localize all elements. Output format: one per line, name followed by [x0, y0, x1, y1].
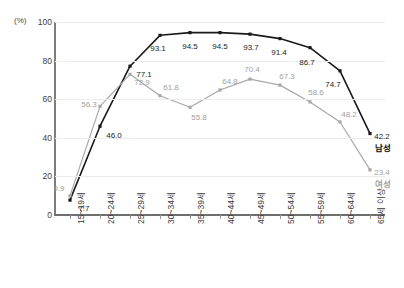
series-line: [70, 33, 370, 201]
x-tick-mark: [100, 215, 101, 219]
data-point-marker: [248, 78, 251, 81]
data-label: 46.0: [106, 131, 122, 140]
series-label-female: 여성: [375, 177, 391, 189]
series-label-male: 남성: [375, 141, 391, 153]
data-point-marker: [278, 84, 281, 87]
data-point-marker: [98, 105, 101, 108]
x-tick-mark: [340, 215, 341, 219]
gridline: [55, 176, 385, 177]
x-category-label: 65세 이상: [374, 188, 386, 224]
x-category-label: 60~64세: [344, 192, 356, 224]
data-label: 64.8: [222, 76, 238, 85]
y-tick-label: 0: [18, 210, 52, 220]
data-point-marker: [68, 199, 71, 202]
data-point-marker: [368, 132, 371, 135]
data-point-marker: [128, 73, 131, 76]
data-label: 86.7: [299, 57, 315, 66]
x-category-label: 50~54세: [284, 192, 296, 224]
data-label: 55.8: [191, 113, 207, 122]
data-point-marker: [68, 194, 71, 197]
y-tick-label: 20: [18, 171, 52, 181]
series-lines: [55, 22, 385, 215]
data-point-marker: [308, 100, 311, 103]
data-point-marker: [98, 125, 101, 128]
data-label: 94.5: [212, 41, 228, 50]
data-label: 94.5: [182, 41, 198, 50]
data-label: 42.2: [374, 131, 390, 140]
data-label: 93.7: [243, 43, 259, 52]
y-tick-label: 60: [18, 94, 52, 104]
data-point-marker: [368, 168, 371, 171]
data-label: 9.9: [53, 183, 64, 192]
y-tick-label: 40: [18, 133, 52, 143]
x-category-label: 25~29세: [134, 192, 146, 224]
data-point-marker: [188, 106, 191, 109]
data-label: 70.4: [244, 65, 260, 74]
data-label: 58.6: [308, 87, 324, 96]
data-point-marker: [218, 88, 221, 91]
gridline: [55, 61, 385, 62]
data-point-marker: [128, 65, 131, 68]
x-tick-mark: [370, 215, 371, 219]
x-category-label: 45~49세: [254, 192, 266, 224]
data-point-marker: [338, 120, 341, 123]
y-tick-label: 80: [18, 56, 52, 66]
gridline: [55, 99, 385, 100]
data-point-marker: [218, 31, 221, 34]
x-category-label: 20~24세: [104, 192, 116, 224]
data-label: 93.1: [150, 44, 166, 53]
x-category-label: 55~59세: [314, 192, 326, 224]
x-tick-mark: [250, 215, 251, 219]
gridline: [55, 22, 385, 23]
data-label: 23.4: [374, 167, 390, 176]
data-label: 7.7: [78, 204, 89, 213]
data-label: 74.7: [325, 79, 341, 88]
y-axis-tick-labels: 100806040200: [14, 0, 52, 288]
line-chart: (%) 100806040200 15~19세20~24세25~29세30~34…: [0, 0, 404, 288]
x-tick-mark: [130, 215, 131, 219]
y-tick-label: 100: [18, 17, 52, 27]
x-category-label: 30~34세: [164, 192, 176, 224]
data-point-marker: [278, 37, 281, 40]
data-label: 48.2: [341, 109, 357, 118]
x-tick-mark: [220, 215, 221, 219]
data-point-marker: [308, 46, 311, 49]
data-label: 56.3: [81, 100, 97, 109]
data-label: 61.8: [163, 82, 179, 91]
data-point-marker: [158, 34, 161, 37]
data-label: 67.3: [279, 72, 295, 81]
gridline: [55, 138, 385, 139]
x-tick-mark: [70, 215, 71, 219]
x-category-label: 35~39세: [194, 192, 206, 224]
x-tick-mark: [280, 215, 281, 219]
data-point-marker: [188, 31, 191, 34]
data-label: 72.9: [134, 78, 150, 87]
x-tick-mark: [190, 215, 191, 219]
data-point-marker: [248, 33, 251, 36]
data-point-marker: [338, 69, 341, 72]
x-tick-mark: [160, 215, 161, 219]
plot-area: [55, 22, 385, 215]
x-tick-mark: [310, 215, 311, 219]
data-label: 91.4: [271, 47, 287, 56]
data-point-marker: [158, 94, 161, 97]
x-category-label: 40~44세: [224, 192, 236, 224]
